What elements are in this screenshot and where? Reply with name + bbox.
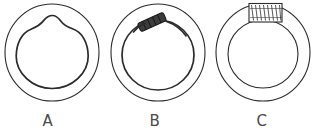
panel-c-label: C <box>257 112 268 130</box>
figure-container: A B <box>0 0 316 131</box>
panel-a-label: A <box>43 112 54 130</box>
three-panel-ring-diagram: A B <box>0 0 316 131</box>
panel-c-hatched-block <box>249 4 282 23</box>
panel-b-label: B <box>150 112 161 130</box>
